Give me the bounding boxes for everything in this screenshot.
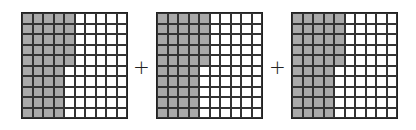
shaded-cell	[189, 66, 200, 77]
empty-cell	[334, 97, 345, 108]
empty-cell	[75, 76, 86, 87]
empty-cell	[334, 108, 345, 119]
empty-cell	[231, 66, 242, 77]
shaded-cell	[64, 34, 75, 45]
empty-cell	[85, 66, 96, 77]
empty-cell	[117, 76, 128, 87]
empty-cell	[106, 13, 117, 24]
shaded-cell	[168, 76, 179, 87]
empty-cell	[199, 108, 210, 119]
shaded-cell	[324, 13, 335, 24]
empty-cell	[96, 97, 107, 108]
shaded-cell	[324, 87, 335, 98]
empty-cell	[75, 97, 86, 108]
empty-cell	[376, 97, 387, 108]
empty-cell	[355, 97, 366, 108]
empty-cell	[85, 13, 96, 24]
shaded-cell	[157, 34, 168, 45]
empty-cell	[345, 76, 356, 87]
empty-cell	[355, 24, 366, 35]
shaded-cell	[292, 66, 303, 77]
empty-cell	[117, 45, 128, 56]
shaded-cell	[64, 24, 75, 35]
shaded-cell	[313, 45, 324, 56]
empty-cell	[220, 87, 231, 98]
shaded-cell	[54, 108, 65, 119]
shaded-cell	[292, 87, 303, 98]
empty-cell	[366, 97, 377, 108]
shaded-cell	[22, 34, 33, 45]
empty-cell	[220, 108, 231, 119]
shaded-cell	[178, 13, 189, 24]
shaded-cell	[33, 66, 44, 77]
shaded-cell	[199, 24, 210, 35]
shaded-cell	[43, 45, 54, 56]
empty-cell	[376, 108, 387, 119]
empty-cell	[366, 66, 377, 77]
empty-cell	[366, 76, 377, 87]
empty-cell	[241, 55, 252, 66]
empty-cell	[199, 66, 210, 77]
shaded-cell	[22, 87, 33, 98]
empty-cell	[376, 55, 387, 66]
empty-cell	[387, 66, 398, 77]
shaded-cell	[189, 24, 200, 35]
shaded-cell	[168, 24, 179, 35]
shaded-cell	[303, 66, 314, 77]
empty-cell	[252, 34, 263, 45]
empty-cell	[220, 13, 231, 24]
empty-cell	[387, 76, 398, 87]
shaded-cell	[189, 97, 200, 108]
shaded-cell	[168, 97, 179, 108]
empty-cell	[345, 13, 356, 24]
shaded-cell	[303, 34, 314, 45]
shaded-cell	[157, 87, 168, 98]
shaded-cell	[334, 45, 345, 56]
shaded-cell	[157, 76, 168, 87]
shaded-cell	[292, 34, 303, 45]
empty-cell	[106, 45, 117, 56]
empty-cell	[96, 24, 107, 35]
empty-cell	[366, 87, 377, 98]
empty-cell	[75, 45, 86, 56]
shaded-cell	[157, 45, 168, 56]
empty-cell	[106, 66, 117, 77]
shaded-cell	[189, 13, 200, 24]
empty-cell	[231, 34, 242, 45]
shaded-cell	[292, 55, 303, 66]
shaded-cell	[22, 97, 33, 108]
empty-cell	[252, 97, 263, 108]
shaded-cell	[324, 34, 335, 45]
shaded-cell	[189, 87, 200, 98]
empty-cell	[85, 76, 96, 87]
empty-cell	[252, 87, 263, 98]
shaded-cell	[157, 66, 168, 77]
shaded-cell	[189, 55, 200, 66]
empty-cell	[96, 13, 107, 24]
shaded-cell	[199, 55, 210, 66]
shaded-cell	[303, 24, 314, 35]
empty-cell	[75, 87, 86, 98]
empty-cell	[376, 66, 387, 77]
shaded-cell	[324, 66, 335, 77]
plus-sign-1: +	[133, 52, 149, 82]
empty-cell	[376, 13, 387, 24]
empty-cell	[241, 76, 252, 87]
shaded-cell	[178, 76, 189, 87]
shaded-cell	[303, 87, 314, 98]
shaded-cell	[22, 66, 33, 77]
empty-cell	[64, 66, 75, 77]
shaded-cell	[303, 108, 314, 119]
shaded-cell	[157, 108, 168, 119]
shaded-cell	[33, 13, 44, 24]
shaded-cell	[303, 97, 314, 108]
empty-cell	[106, 34, 117, 45]
empty-cell	[106, 24, 117, 35]
shaded-cell	[178, 55, 189, 66]
empty-cell	[220, 24, 231, 35]
shaded-cell	[157, 24, 168, 35]
empty-cell	[241, 108, 252, 119]
empty-cell	[334, 76, 345, 87]
empty-cell	[85, 24, 96, 35]
empty-cell	[210, 76, 221, 87]
